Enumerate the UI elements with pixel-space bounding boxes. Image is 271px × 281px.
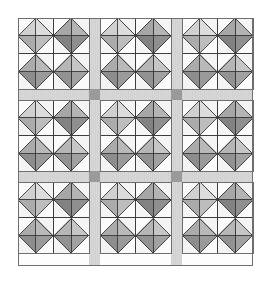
quilt-root [18, 18, 253, 266]
sashing-horizontal-stripe [54, 89, 55, 100]
sashing-horizontal-stripe [86, 89, 87, 100]
sashing-horizontal-stripe [30, 171, 31, 182]
sashing-horizontal-stripe [232, 89, 233, 100]
sashing-horizontal-stripe [48, 89, 49, 100]
sashing-horizontal-stripe [108, 171, 109, 182]
sashing-horizontal-stripe [196, 89, 197, 100]
sashing-horizontal-stripe [132, 89, 133, 100]
sashing-horizontal-stripe [212, 171, 213, 182]
sashing-horizontal-stripe [214, 171, 215, 182]
cornerstone-4 [171, 171, 182, 182]
sashing-horizontal-stripe [234, 89, 235, 100]
sashing-vertical-stripe [95, 18, 96, 266]
block-r3c1 [18, 182, 89, 253]
sashing-horizontal-stripe [38, 171, 39, 182]
sashing-horizontal-stripe [226, 171, 227, 182]
sashing-horizontal-stripe [56, 89, 57, 100]
sashing-horizontal-stripe [232, 171, 233, 182]
sashing-horizontal-stripe [130, 171, 131, 182]
sashing-horizontal-stripe [88, 89, 89, 100]
sashing-horizontal-stripe [68, 89, 69, 100]
sashing-horizontal-stripe [170, 89, 171, 100]
sashing-vertical-1 [89, 18, 100, 266]
sashing-horizontal-stripe [146, 89, 147, 100]
sashing-horizontal-stripe [236, 171, 237, 182]
sashing-horizontal-stripe [158, 171, 159, 182]
sashing-horizontal-stripe [66, 89, 67, 100]
sashing-vertical-stripe [179, 18, 180, 266]
sashing-horizontal-stripe [200, 171, 201, 182]
sashing-horizontal-stripe [64, 171, 65, 182]
sashing-horizontal-stripe [24, 171, 25, 182]
sashing-horizontal-stripe [120, 89, 121, 100]
sashing-horizontal-stripe [240, 171, 241, 182]
sashing-horizontal-stripe [100, 171, 101, 182]
sashing-horizontal-stripe [44, 171, 45, 182]
sashing-horizontal-stripe [194, 89, 195, 100]
sashing-horizontal-stripe [32, 89, 33, 100]
sashing-horizontal-stripe [106, 171, 107, 182]
sashing-horizontal-stripe [164, 89, 165, 100]
sashing-horizontal-stripe [250, 89, 251, 100]
sashing-horizontal-stripe [218, 89, 219, 100]
sashing-vertical-stripe [175, 18, 176, 266]
sashing-horizontal-stripe [224, 171, 225, 182]
sashing-horizontal-stripe [24, 89, 25, 100]
sashing-vertical-stripe [177, 18, 178, 266]
sashing-horizontal-stripe [190, 171, 191, 182]
sashing-horizontal-stripe [76, 171, 77, 182]
sashing-vertical-2 [171, 18, 182, 266]
sashing-horizontal-stripe [78, 89, 79, 100]
sashing-horizontal-stripe [186, 89, 187, 100]
sashing-horizontal-stripe [106, 89, 107, 100]
sashing-horizontal-stripe [108, 89, 109, 100]
sashing-horizontal-stripe [248, 171, 249, 182]
sashing-horizontal-stripe [168, 89, 169, 100]
sashing-horizontal-stripe [238, 89, 239, 100]
sashing-horizontal-stripe [138, 89, 139, 100]
sashing-horizontal-stripe [70, 171, 71, 182]
sashing-horizontal-stripe [224, 89, 225, 100]
quilt-diagram-stage [0, 0, 271, 281]
sashing-horizontal-stripe [88, 171, 89, 182]
sashing-horizontal-stripe [234, 171, 235, 182]
sashing-horizontal-stripe [236, 89, 237, 100]
sashing-horizontal-stripe [64, 89, 65, 100]
block-r2c1 [18, 100, 89, 171]
sashing-horizontal-stripe [160, 171, 161, 182]
sashing-horizontal-stripe [160, 89, 161, 100]
sashing-horizontal-stripe [190, 89, 191, 100]
sashing-horizontal-stripe [134, 171, 135, 182]
sashing-horizontal-stripe [212, 89, 213, 100]
sashing-horizontal-stripe [220, 89, 221, 100]
sashing-horizontal-stripe [192, 89, 193, 100]
sashing-horizontal-stripe [72, 171, 73, 182]
sashing-horizontal-stripe [100, 89, 101, 100]
sashing-horizontal-stripe [22, 89, 23, 100]
sashing-horizontal-stripe [132, 171, 133, 182]
sashing-horizontal-stripe [84, 89, 85, 100]
sashing-horizontal-stripe [42, 171, 43, 182]
sashing-horizontal-stripe [152, 171, 153, 182]
sashing-horizontal-stripe [148, 171, 149, 182]
block-r2c3 [182, 100, 253, 171]
sashing-horizontal-stripe [52, 171, 53, 182]
sashing-horizontal-stripe [124, 171, 125, 182]
sashing-horizontal-stripe [40, 171, 41, 182]
sashing-horizontal-stripe [44, 89, 45, 100]
block-r3c2 [100, 182, 171, 253]
sashing-horizontal-stripe [54, 171, 55, 182]
sashing-horizontal-stripe [144, 89, 145, 100]
sashing-horizontal-stripe [58, 171, 59, 182]
sashing-horizontal-stripe [36, 171, 37, 182]
sashing-horizontal-stripe [76, 89, 77, 100]
cornerstone-1 [89, 89, 100, 100]
sashing-horizontal-stripe [28, 89, 29, 100]
sashing-horizontal-stripe [186, 171, 187, 182]
sashing-horizontal-stripe [216, 171, 217, 182]
sashing-horizontal-stripe [164, 171, 165, 182]
sashing-horizontal-stripe [182, 89, 183, 100]
sashing-horizontal-stripe [206, 171, 207, 182]
sashing-horizontal-stripe [118, 89, 119, 100]
sashing-horizontal-stripe [166, 171, 167, 182]
